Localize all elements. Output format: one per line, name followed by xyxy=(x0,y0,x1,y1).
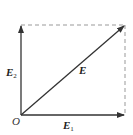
vector-diagram: O E2 E E1 xyxy=(0,0,133,135)
origin-label: O xyxy=(12,115,20,127)
vector-e-label: E xyxy=(78,64,86,76)
vector-e2-label: E2 xyxy=(5,66,17,80)
vector-e1-label: E1 xyxy=(62,119,74,133)
vector-e-arrow xyxy=(21,26,124,115)
